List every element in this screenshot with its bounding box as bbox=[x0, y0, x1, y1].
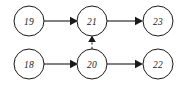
edge-20-to-22-arrowhead-icon bbox=[135, 60, 143, 68]
diagram-canvas: 19 21 23 18 20 22 bbox=[0, 0, 184, 87]
node-21[interactable]: 21 bbox=[77, 6, 107, 36]
node-21-label: 21 bbox=[87, 17, 97, 27]
node-19[interactable]: 19 bbox=[14, 6, 44, 36]
node-22[interactable]: 22 bbox=[143, 49, 173, 79]
edge-19-to-21 bbox=[44, 17, 78, 25]
node-18[interactable]: 18 bbox=[14, 49, 44, 79]
directed-graph: 19 21 23 18 20 22 bbox=[0, 0, 184, 87]
edge-21-to-23-arrowhead-icon bbox=[135, 17, 143, 25]
edge-20-to-22 bbox=[107, 60, 143, 68]
edge-20-to-21-arrowhead-icon bbox=[88, 36, 96, 42]
node-18-label: 18 bbox=[24, 60, 34, 70]
node-layer: 19 21 23 18 20 22 bbox=[14, 6, 173, 79]
node-19-label: 19 bbox=[24, 17, 34, 27]
node-20-label: 20 bbox=[87, 60, 97, 70]
node-23-label: 23 bbox=[153, 17, 163, 27]
edge-21-to-23 bbox=[107, 17, 143, 25]
node-23[interactable]: 23 bbox=[143, 6, 173, 36]
edge-18-to-20 bbox=[44, 60, 78, 68]
edge-20-to-21 bbox=[88, 36, 96, 49]
node-20[interactable]: 20 bbox=[77, 49, 107, 79]
node-22-label: 22 bbox=[153, 60, 163, 70]
